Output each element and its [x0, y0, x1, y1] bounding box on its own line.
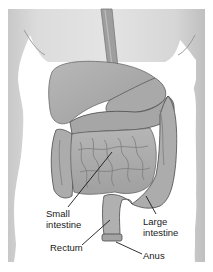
label-large-intestine-line2: intestine	[143, 227, 178, 238]
small-intestine	[71, 128, 157, 194]
label-rectum-text: Rectum	[50, 242, 83, 253]
label-rectum: Rectum	[50, 242, 83, 253]
label-anus-text: Anus	[143, 250, 165, 261]
label-small-intestine: Small intestine	[46, 208, 81, 230]
ascending-colon	[51, 129, 72, 198]
label-large-intestine-line1: Large	[143, 216, 178, 227]
right-arm-gap	[183, 84, 196, 262]
label-large-intestine: Large intestine	[143, 216, 178, 238]
label-small-intestine-line1: Small	[46, 208, 81, 219]
label-anus: Anus	[143, 250, 165, 261]
anatomy-illustration	[0, 0, 213, 272]
digestive-system-figure: Small intestine Rectum Large intestine A…	[0, 0, 213, 272]
label-small-intestine-line2: intestine	[46, 219, 81, 230]
rectum	[103, 194, 133, 235]
anus	[102, 234, 122, 241]
